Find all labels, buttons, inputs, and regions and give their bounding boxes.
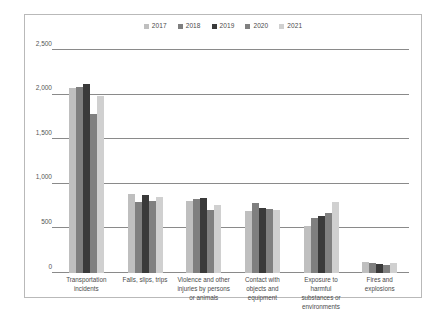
bar-group [174, 50, 233, 273]
bar-2019[interactable] [200, 198, 207, 273]
bar-group [292, 50, 351, 273]
x-axis-label-line: Contact with [234, 275, 291, 284]
bar-2018[interactable] [252, 203, 259, 273]
x-axis-category-label: Violence and otherinjuries by personsor … [174, 275, 233, 312]
x-axis-labels: TransportationincidentsFalls, slips, tri… [57, 275, 409, 312]
legend-item-2021[interactable]: 2021 [279, 23, 302, 30]
x-axis-label-line: harmful [293, 284, 350, 293]
legend-item-2019[interactable]: 2019 [212, 23, 235, 30]
x-axis-category-label: Contact withobjects andequipment [233, 275, 292, 312]
y-axis-tick-label: 0 [48, 263, 52, 270]
x-axis-label-line: or animals [175, 293, 232, 302]
bar-group [233, 50, 292, 273]
bar-2017[interactable] [362, 262, 369, 273]
legend-item-label: 2020 [253, 23, 268, 30]
x-axis-label-line: Exposure to [293, 275, 350, 284]
x-axis-label-line: objects and [234, 284, 291, 293]
bar-2020[interactable] [383, 265, 390, 273]
x-axis-category-label: Fires andexplosions [350, 275, 409, 312]
bar-2017[interactable] [245, 211, 252, 273]
x-axis-label-line: explosions [351, 284, 408, 293]
legend-swatch-icon [279, 24, 284, 29]
bar-group [350, 50, 409, 273]
legend-item-2018[interactable]: 2018 [178, 23, 201, 30]
y-axis-tick-label: 1,500 [36, 129, 52, 136]
bar-2017[interactable] [304, 226, 311, 273]
y-axis-tick-label: 500 [41, 219, 52, 226]
bar-2017[interactable] [186, 201, 193, 273]
chart-legend: 20172018201920202021 [25, 23, 421, 30]
x-axis-label-line: Violence and other [175, 275, 232, 284]
legend-swatch-icon [144, 24, 149, 29]
bar-groups [57, 50, 409, 273]
legend-item-label: 2018 [186, 23, 201, 30]
x-axis-label-line: environments [293, 302, 350, 311]
legend-swatch-icon [178, 24, 183, 29]
bar-2020[interactable] [325, 213, 332, 273]
x-axis-label-line: Fires and [351, 275, 408, 284]
bar-2019[interactable] [83, 84, 90, 273]
x-axis-label-line: Transportation [58, 275, 115, 284]
bar-2018[interactable] [135, 202, 142, 273]
x-axis-label-line: substances or [293, 293, 350, 302]
legend-item-2020[interactable]: 2020 [245, 23, 268, 30]
x-axis-category-label: Exposure toharmfulsubstances orenvironme… [292, 275, 351, 312]
legend-item-label: 2021 [287, 23, 302, 30]
y-axis-tick-label: 1,000 [36, 174, 52, 181]
bar-2017[interactable] [69, 88, 76, 273]
x-axis-label-line: injuries by persons [175, 284, 232, 293]
chart-container: 20172018201920202021 05001,0001,5002,000… [24, 14, 422, 298]
bar-2019[interactable] [318, 216, 325, 273]
bar-2019[interactable] [142, 195, 149, 273]
y-axis-tick-label: 2,500 [36, 40, 52, 47]
y-axis-tick-label: 2,000 [36, 85, 52, 92]
legend-swatch-icon [212, 24, 217, 29]
legend-swatch-icon [245, 24, 250, 29]
bar-group [57, 50, 116, 273]
bar-2019[interactable] [376, 264, 383, 273]
bar-2020[interactable] [90, 114, 97, 273]
bar-2017[interactable] [128, 194, 135, 273]
x-axis-category-label: Falls, slips, trips [116, 275, 175, 312]
x-axis-label-line: Falls, slips, trips [117, 275, 174, 284]
bar-2018[interactable] [311, 218, 318, 273]
bar-2021[interactable] [156, 197, 163, 273]
bar-2018[interactable] [76, 87, 83, 273]
legend-item-label: 2017 [152, 23, 167, 30]
bar-2021[interactable] [332, 202, 339, 273]
bar-2021[interactable] [97, 96, 104, 273]
bar-2020[interactable] [149, 201, 156, 273]
bar-2020[interactable] [266, 209, 273, 273]
legend-item-label: 2019 [220, 23, 235, 30]
bar-2021[interactable] [214, 205, 221, 273]
bar-2021[interactable] [273, 210, 280, 273]
bar-2021[interactable] [390, 263, 397, 273]
bar-2018[interactable] [193, 199, 200, 273]
x-axis-label-line: incidents [58, 284, 115, 293]
bar-2018[interactable] [369, 263, 376, 273]
x-axis-category-label: Transportationincidents [57, 275, 116, 312]
legend-item-2017[interactable]: 2017 [144, 23, 167, 30]
bar-group [116, 50, 175, 273]
x-axis-label-line: equipment [234, 293, 291, 302]
bar-2020[interactable] [207, 210, 214, 273]
plot-area: 05001,0001,5002,0002,500 [57, 50, 409, 273]
bar-2019[interactable] [259, 208, 266, 273]
